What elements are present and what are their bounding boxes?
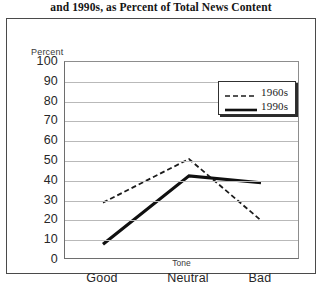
figure-caption: and 1990s, as Percent of Total News Cont…: [0, 0, 322, 16]
x-axis-tick-label: Bad: [249, 271, 272, 285]
y-axis-tick-label: 50: [12, 153, 58, 167]
legend-swatch-dashed: [224, 87, 258, 97]
y-axis-tick-labels: 1009080706050403020100: [10, 61, 58, 259]
x-axis-title: Tone: [172, 258, 190, 268]
legend-label-1990s: 1990s: [261, 100, 288, 112]
y-axis-tick-label: 90: [12, 74, 58, 88]
series-line-1960s: [103, 159, 261, 220]
y-axis-tick-label: 40: [12, 173, 58, 187]
y-axis-tick-label: 20: [12, 212, 58, 226]
gridline: [65, 121, 298, 122]
gridline: [65, 181, 298, 182]
y-axis-tick-label: 80: [12, 94, 58, 108]
gridline: [65, 201, 298, 202]
gridline: [65, 220, 298, 221]
y-axis-tick-label: 30: [12, 193, 58, 207]
legend-item-1960s: 1960s: [219, 84, 295, 99]
chart-legend: 1960s 1990s: [218, 81, 296, 115]
y-axis-tick-label: 100: [12, 54, 58, 68]
legend-label-1960s: 1960s: [261, 86, 288, 98]
y-axis-tick-label: 60: [12, 133, 58, 147]
x-axis-tick-labels: Tone GoodNeutralBad: [64, 271, 299, 286]
series-line-1990s: [103, 176, 261, 244]
y-axis-tick-label: 70: [12, 113, 58, 127]
legend-swatch-solid: [224, 101, 258, 111]
y-axis-tick-label: 10: [12, 232, 58, 246]
y-axis-tick-label: 0: [12, 252, 58, 266]
x-axis-tick-label: Good: [86, 271, 117, 285]
gridline: [65, 161, 298, 162]
x-axis-tick-label: Neutral: [167, 271, 209, 285]
gridline: [65, 240, 298, 241]
gridline: [65, 141, 298, 142]
legend-item-1990s: 1990s: [219, 98, 295, 113]
chart-frame: Percent 1009080706050403020100 Tone Good…: [6, 18, 316, 274]
